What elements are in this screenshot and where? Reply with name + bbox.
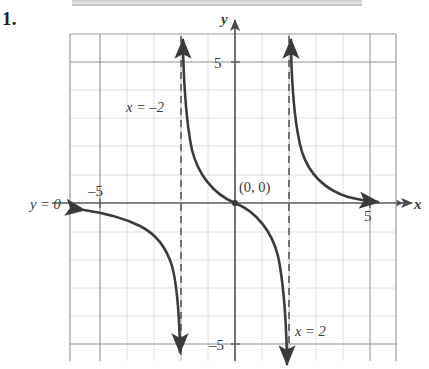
figure-container: 1. [0, 0, 429, 369]
x-tick-label-positive-5: 5 [364, 208, 372, 224]
curve-branch-right-tail [348, 197, 378, 202]
y-tick-label-positive-5: 5 [214, 55, 222, 71]
origin-point-marker [232, 200, 238, 206]
x-axis-label: x [413, 196, 422, 212]
y-axis-label: y [219, 11, 228, 27]
curve-branch-left [84, 210, 180, 345]
x-tick-label-negative-5: –5 [87, 183, 103, 199]
function-curve [84, 40, 378, 364]
vertical-asymptote-left-label: x = –2 [125, 99, 164, 115]
vertical-asymptote-right-label: x = 2 [294, 323, 326, 339]
graph-svg: y x 5 –5 –5 5 x = –2 x = 2 y = 0 (0, 0) [0, 0, 429, 369]
horizontal-asymptote-label: y = 0 [28, 196, 61, 212]
origin-point-label: (0, 0) [239, 179, 271, 196]
y-tick-label-negative-5: –5 [208, 337, 224, 353]
